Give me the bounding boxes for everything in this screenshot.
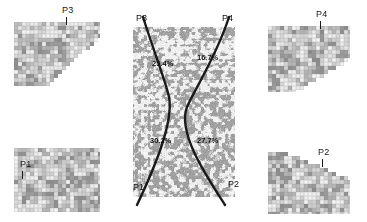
- percentage-label-lower-left: 30.2%: [150, 137, 171, 145]
- thumbnail-p2-image: [268, 152, 350, 214]
- thumbnail-p2-label: P2: [318, 148, 329, 157]
- thumbnail-p3-image: [14, 22, 100, 88]
- thumbnail-p2-tick-marker: [322, 159, 323, 167]
- transect-line-p3-p1: [137, 17, 170, 205]
- percentage-label-upper-left: 25.4%: [152, 60, 173, 68]
- transect-overlay: [133, 27, 235, 197]
- endpoint-label-p2: P2: [228, 180, 239, 189]
- endpoint-label-p4: P4: [222, 14, 233, 23]
- thumbnail-p1-tick-marker: [22, 171, 23, 179]
- transect-line-p4-p2: [185, 17, 229, 205]
- thumbnail-p2[interactable]: P2: [268, 152, 350, 214]
- percentage-label-lower-right: 27.7%: [197, 137, 218, 145]
- thumbnail-p1-label: P1: [20, 160, 31, 169]
- thumbnail-p3[interactable]: P3: [14, 22, 100, 88]
- thumbnail-p3-label: P3: [62, 6, 73, 15]
- thumbnail-p1-image: [14, 148, 100, 212]
- thumbnail-p4-tick-marker: [320, 21, 321, 29]
- percentage-label-upper-right: 16.7%: [197, 54, 218, 62]
- thumbnail-p4-label: P4: [316, 10, 327, 19]
- endpoint-label-p3: P3: [136, 14, 147, 23]
- thumbnail-p1[interactable]: P1: [14, 148, 100, 212]
- thumbnail-p4[interactable]: P4: [268, 26, 350, 92]
- thumbnail-p4-image: [268, 26, 350, 92]
- endpoint-label-p1: P1: [133, 183, 144, 192]
- central-texture-panel[interactable]: [133, 27, 235, 197]
- figure-root: P3 P4 P1 P2 P3 P4 P1 P2 25.4% 16.7% 30.2…: [0, 0, 367, 222]
- thumbnail-p3-tick-marker: [66, 17, 67, 25]
